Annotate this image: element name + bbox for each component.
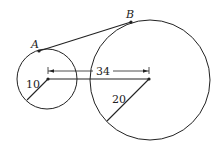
- label-large-radius: 20: [112, 93, 126, 106]
- small-center-dot: [46, 77, 49, 80]
- geometry-diagram: A B 10 20 34: [0, 0, 219, 145]
- label-b: B: [125, 8, 134, 21]
- label-center-distance: 34: [96, 65, 110, 78]
- large-center-dot: [147, 77, 150, 80]
- label-a: A: [30, 38, 39, 51]
- tangent-segment-ab: [39, 22, 131, 51]
- label-small-radius: 10: [26, 78, 40, 91]
